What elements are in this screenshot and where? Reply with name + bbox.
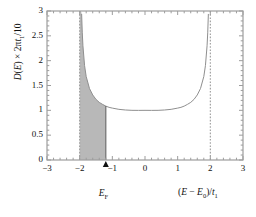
y-tick-label: 1 — [20, 104, 43, 114]
x-tick-label: 1 — [171, 163, 185, 173]
y-tick-label: 1.5 — [20, 80, 43, 90]
y-tick-label: 0.5 — [20, 129, 43, 139]
x-tick-label: 2 — [203, 163, 217, 173]
y-axis-label-E: E — [13, 64, 23, 70]
x-tick-label: 3 — [236, 163, 250, 173]
x-axis-label: (E − E0)/t1 — [178, 187, 218, 199]
y-tick-label: 2 — [20, 55, 43, 65]
x-tick-label: −1 — [105, 163, 119, 173]
x-tick-label: −3 — [40, 163, 54, 173]
y-tick-label: 2.5 — [20, 30, 43, 40]
x-axis-t-sub: 1 — [215, 192, 218, 199]
x-axis-minus: − — [187, 187, 197, 197]
fermi-level-label: EF — [99, 188, 108, 200]
plot-background — [47, 11, 243, 160]
fermi-level-sub: F — [105, 193, 109, 200]
y-axis-label-paren-open: ( — [13, 70, 23, 73]
y-tick-label: 3 — [20, 5, 43, 15]
x-tick-label: −2 — [73, 163, 87, 173]
y-tick-label: 0 — [20, 154, 43, 164]
x-tick-label: 0 — [138, 163, 152, 173]
